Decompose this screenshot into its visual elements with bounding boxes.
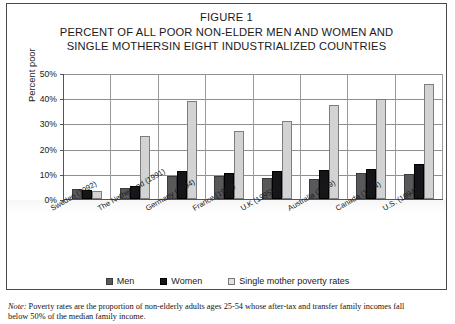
y-axis-tick-label: 10%	[40, 170, 57, 180]
legend-swatch-icon	[228, 278, 235, 285]
y-axis-tick-label: 20%	[40, 145, 57, 155]
chart-plot-area: 0%10%20%30%40%50%	[63, 74, 443, 200]
x-axis-tick-slot: U.S. (1994)	[396, 202, 444, 264]
legend-item[interactable]: Single mother poverty rates	[228, 276, 349, 286]
legend-swatch-icon	[106, 278, 113, 285]
bar-group	[206, 74, 253, 199]
note-line-1-text: Poverty rates are the proportion of non-…	[29, 302, 405, 311]
legend-item[interactable]: Men	[106, 276, 135, 286]
y-axis-tick-label: 50%	[40, 69, 57, 79]
bar-group	[301, 74, 348, 199]
note-line-1: Note: Poverty rates are the proportion o…	[8, 302, 448, 312]
x-axis-tick-slot: Germany (1994)	[158, 202, 206, 264]
figure-frame: FIGURE 1 PERCENT OF ALL POOR NON-ELDER M…	[6, 3, 447, 290]
y-axis-title: Percent poor	[26, 48, 37, 102]
chart-axes: 0%10%20%30%40%50%	[63, 74, 443, 200]
legend-label: Women	[171, 276, 202, 286]
bar[interactable]	[424, 84, 434, 199]
x-axis-tick-slot: Sweden (1992)	[63, 202, 111, 264]
note-prefix: Note:	[8, 302, 26, 311]
bar[interactable]	[282, 121, 292, 199]
bar-group	[254, 74, 301, 199]
figure-title-line-2: SINGLE MOTHERSIN EIGHT INDUSTRIALIZED CO…	[7, 39, 446, 54]
bar-group	[396, 74, 443, 199]
x-axis-tick-slot: Canada (1994)	[348, 202, 396, 264]
x-axis-tick-slot: U.K (1995)	[253, 202, 301, 264]
bar-group	[159, 74, 206, 199]
figure-title-line-1: PERCENT OF ALL POOR NON-ELDER MEN AND WO…	[7, 25, 446, 40]
legend-label: Men	[117, 276, 135, 286]
figure-number: FIGURE 1	[7, 10, 446, 25]
bar[interactable]	[140, 136, 150, 199]
x-axis-tick-labels: Sweden (1992)The Netherland (1991)German…	[63, 202, 443, 264]
bar[interactable]	[92, 191, 102, 199]
legend-item[interactable]: Women	[160, 276, 202, 286]
figure-title-block: FIGURE 1 PERCENT OF ALL POOR NON-ELDER M…	[7, 10, 446, 54]
legend-swatch-icon	[160, 278, 167, 285]
y-axis-tick-label: 40%	[40, 94, 57, 104]
legend-label: Single mother poverty rates	[239, 276, 349, 286]
y-axis-tick-label: 30%	[40, 119, 57, 129]
note-line-2: below 50% of the median family income.	[8, 312, 448, 322]
bar-groups	[64, 74, 443, 199]
bar-group	[64, 74, 111, 199]
figure-note: Note: Poverty rates are the proportion o…	[8, 302, 448, 323]
bar-group	[348, 74, 395, 199]
chart-legend: MenWomenSingle mother poverty rates	[7, 276, 448, 286]
